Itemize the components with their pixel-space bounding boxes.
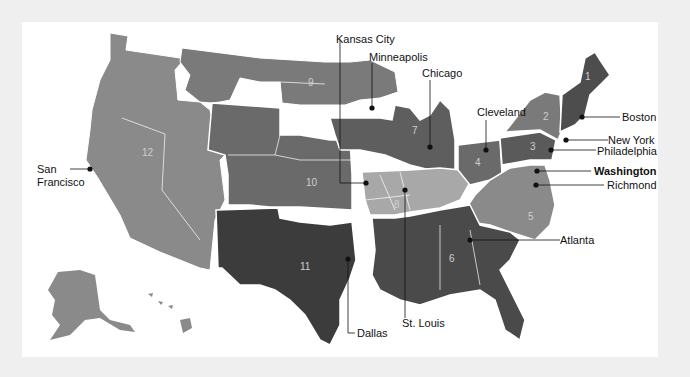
new-york-dot [563, 137, 568, 142]
hawaii [148, 293, 192, 333]
district-1-number: 1 [585, 71, 591, 82]
label-dallas: Dallas [357, 327, 388, 339]
district-5-number: 5 [528, 211, 534, 222]
atlanta-dot [467, 237, 472, 242]
philadelphia-dot [548, 147, 553, 152]
us-map: 9 12 10 11 7 8 4 3 2 1 5 6 [0, 0, 690, 377]
label-atlanta: Atlanta [560, 234, 594, 246]
district-11[interactable] [216, 208, 356, 345]
district-8-number: 8 [394, 199, 400, 210]
district-1[interactable] [560, 52, 610, 132]
label-st-louis: St. Louis [402, 317, 445, 329]
district-11-number: 11 [300, 261, 311, 272]
kansas-city-dot [363, 180, 368, 185]
label-chicago: Chicago [422, 67, 462, 79]
district-3-number: 3 [530, 141, 536, 152]
label-san-francisco-line1: San [37, 163, 57, 175]
cleveland-dot [483, 147, 488, 152]
san-francisco-dot [87, 166, 92, 171]
district-3[interactable] [500, 132, 556, 165]
district-12-number: 12 [142, 147, 154, 158]
richmond-dot [533, 182, 538, 187]
district-7-number: 7 [412, 125, 418, 136]
district-6-number: 6 [449, 253, 455, 264]
district-9-number: 9 [308, 77, 314, 88]
label-boston: Boston [622, 111, 656, 123]
label-kansas-city: Kansas City [336, 33, 395, 45]
washington-dot [534, 168, 539, 173]
district-2-number: 2 [543, 111, 549, 122]
boston-dot [579, 114, 584, 119]
minneapolis-dot [369, 105, 374, 110]
label-minneapolis: Minneapolis [369, 51, 428, 63]
chicago-dot [427, 144, 432, 149]
district-9[interactable] [180, 48, 398, 105]
label-washington: Washington [594, 165, 657, 177]
label-philadelphia: Philadelphia [597, 145, 657, 157]
st-louis-dot [402, 187, 407, 192]
district-4-number: 4 [475, 157, 481, 168]
district-10-number: 10 [306, 177, 318, 188]
alaska [48, 270, 135, 340]
label-cleveland: Cleveland [477, 106, 526, 118]
label-san-francisco-line2: Francisco [37, 176, 85, 188]
label-richmond: Richmond [607, 179, 657, 191]
dallas-dot [345, 256, 350, 261]
